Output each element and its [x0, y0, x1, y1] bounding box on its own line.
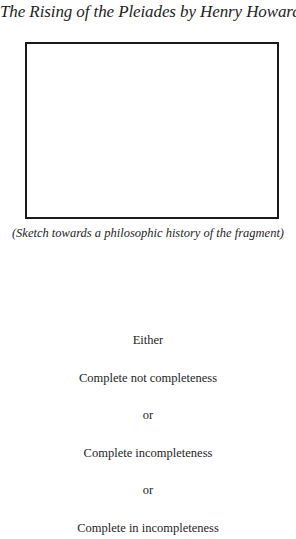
text-line-complete-not-completeness: Complete not completeness — [0, 371, 296, 386]
text-line-or: or — [0, 483, 296, 498]
text-line-complete-in-incompleteness: Complete in incompleteness — [0, 521, 296, 536]
page-title: The Rising of the Pleiades by Henry Howa… — [0, 2, 296, 22]
sketch-caption: (Sketch towards a philosophic history of… — [0, 226, 296, 241]
text-line-either: Either — [0, 333, 296, 348]
text-line-complete-incompleteness: Complete incompleteness — [0, 446, 296, 461]
text-line-or: or — [0, 408, 296, 423]
sketch-box — [25, 42, 279, 219]
